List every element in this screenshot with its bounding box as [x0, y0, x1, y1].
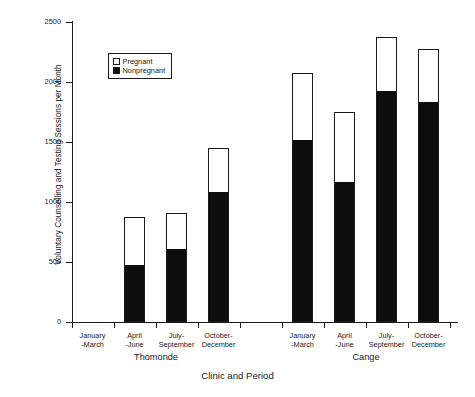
y-tick-label-500: 500 — [27, 258, 61, 265]
x-tick-5 — [282, 322, 283, 328]
x-tick-0 — [72, 322, 73, 328]
y-tick-label-2500: 2500 — [27, 18, 61, 25]
x-category-label-3: October- December — [188, 331, 250, 349]
bar-cange-january-march — [292, 73, 313, 322]
y-axis-title: Voluntary Counselling and Testing Sessio… — [54, 15, 63, 315]
chart-figure: Voluntary Counselling and Testing Sessio… — [0, 0, 475, 397]
legend-item-nonpregnant: Nonpregnant — [113, 66, 165, 75]
group-label-cange: Cange — [306, 352, 426, 362]
y-tick-2000 — [66, 82, 72, 83]
bar-segment-nonpregnant — [419, 102, 438, 321]
bar-cange-october-december — [418, 49, 439, 322]
legend-label-nonpregnant: Nonpregnant — [123, 66, 166, 75]
bar-segment-nonpregnant — [167, 249, 186, 321]
bar-segment-nonpregnant — [335, 182, 354, 321]
y-tick-1500 — [66, 142, 72, 143]
y-tick-500 — [66, 262, 72, 263]
x-category-line2: December — [188, 340, 250, 349]
x-tick-9 — [450, 322, 451, 328]
y-tick-label-2000: 2000 — [27, 78, 61, 85]
chart-legend: Pregnant Nonpregnant — [108, 53, 172, 79]
bar-thomonde-october-december — [208, 148, 229, 322]
x-tick-2 — [156, 322, 157, 328]
bar-segment-nonpregnant — [209, 192, 228, 321]
bar-thomonde-july-september — [166, 213, 187, 322]
bar-segment-nonpregnant — [293, 140, 312, 321]
bar-thomonde-april-june — [124, 217, 145, 322]
y-tick-1000 — [66, 202, 72, 203]
bar-cange-april-june — [334, 112, 355, 322]
x-category-label-7: October- December — [398, 331, 460, 349]
x-tick-6 — [324, 322, 325, 328]
x-tick-7 — [366, 322, 367, 328]
y-tick-label-1500: 1500 — [27, 138, 61, 145]
x-axis-title: Clinic and Period — [0, 370, 475, 381]
x-category-line1: October- — [398, 331, 460, 340]
bar-segment-nonpregnant — [125, 265, 144, 321]
bar-cange-july-september — [376, 37, 397, 322]
legend-swatch-nonpregnant-icon — [113, 67, 120, 74]
x-category-line2: December — [398, 340, 460, 349]
x-tick-8 — [408, 322, 409, 328]
y-axis-line — [72, 21, 73, 323]
legend-item-pregnant: Pregnant — [113, 57, 165, 66]
y-tick-label-0: 0 — [27, 318, 61, 325]
bar-segment-nonpregnant — [377, 91, 396, 321]
legend-label-pregnant: Pregnant — [123, 57, 153, 66]
x-tick-4 — [240, 322, 241, 328]
y-tick-2500 — [66, 22, 72, 23]
x-tick-1 — [114, 322, 115, 328]
group-label-thomonde: Thomonde — [96, 352, 216, 362]
x-tick-3 — [198, 322, 199, 328]
legend-swatch-pregnant-icon — [113, 58, 120, 65]
y-tick-label-1000: 1000 — [27, 198, 61, 205]
x-category-line1: October- — [188, 331, 250, 340]
